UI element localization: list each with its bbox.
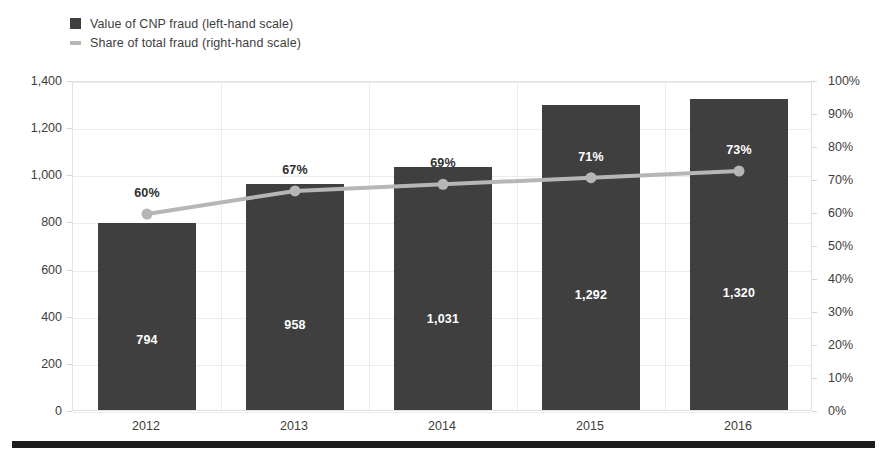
right-axis-tickmark [812,246,817,247]
right-axis-tickmark [812,180,817,181]
gridline-horizontal [73,82,811,83]
right-axis-tickmark [812,279,817,280]
percentage-label: 60% [134,186,160,200]
right-axis-tickmark [812,147,817,148]
legend-item-line: Share of total fraud (right-hand scale) [70,33,490,52]
right-axis-tickmark [812,213,817,214]
gridline-vertical [221,82,222,410]
left-axis-tick-label: 800 [41,215,62,229]
right-axis-tick-label: 80% [828,140,853,154]
left-axis-tick-label: 0 [55,404,62,418]
bar-2013[interactable] [246,184,344,410]
left-axis-tickmark [67,175,72,176]
line-marker-2012[interactable] [142,209,153,220]
right-axis-tick-label: 50% [828,239,853,253]
bar-value-label: 1,320 [723,286,755,300]
gridline-vertical [517,82,518,410]
percentage-label: 69% [430,156,456,170]
category-tick-label-2014: 2014 [428,419,456,433]
bar-value-label: 794 [136,333,157,347]
left-axis-tickmark [67,270,72,271]
filled-square-icon [70,18,81,29]
left-axis-tick-label: 600 [41,263,62,277]
category-tick-label-2012: 2012 [132,419,160,433]
gridline-vertical [665,82,666,410]
left-axis-tick-label: 1,400 [31,74,62,88]
right-axis-tickmark [812,312,817,313]
line-segment-icon [70,41,81,45]
right-axis-tickmark [812,345,817,346]
left-axis-tickmark [67,128,72,129]
category-tick-label-2016: 2016 [724,419,752,433]
right-axis-tick-label: 100% [828,74,860,88]
right-axis-tick-label: 90% [828,107,853,121]
left-axis-tick-label: 1,200 [31,121,62,135]
right-axis-tick-label: 30% [828,305,853,319]
category-tick-label-2015: 2015 [576,419,604,433]
right-axis-tickmark [812,378,817,379]
left-axis-tick-label: 200 [41,357,62,371]
percentage-label: 67% [282,163,308,177]
left-axis-tick-label: 400 [41,310,62,324]
legend-label-line: Share of total fraud (right-hand scale) [90,36,301,50]
chart-legend: Value of CNP fraud (left-hand scale) Sha… [70,14,490,52]
right-axis-tick-label: 60% [828,206,853,220]
left-axis-tickmark [67,81,72,82]
right-axis-tick-label: 10% [828,371,853,385]
bar-value-label: 1,292 [575,288,607,302]
right-axis-tick-label: 20% [828,338,853,352]
bar-2014[interactable] [394,167,492,410]
right-axis-tickmark [812,81,817,82]
bar-value-label: 1,031 [427,312,459,326]
bottom-divider-rule [12,441,875,448]
right-axis-tick-label: 0% [828,404,846,418]
gridline-vertical [369,82,370,410]
right-axis-tick-label: 40% [828,272,853,286]
percentage-label: 71% [578,150,604,164]
right-axis-tick-label: 70% [828,173,853,187]
gridline-horizontal [73,412,811,413]
left-axis-tickmark [67,411,72,412]
bar-value-label: 958 [284,318,305,332]
category-tick-label-2013: 2013 [280,419,308,433]
legend-label-bars: Value of CNP fraud (left-hand scale) [90,17,293,31]
bar-2012[interactable] [98,223,196,410]
legend-item-bars: Value of CNP fraud (left-hand scale) [70,14,490,33]
plot-area: 7949581,0311,2921,320 60%67%69%71%73% [72,81,812,411]
percentage-label: 73% [726,143,752,157]
left-axis-tickmark [67,222,72,223]
right-axis-tickmark [812,114,817,115]
left-axis-tick-label: 1,000 [31,168,62,182]
left-axis-tickmark [67,317,72,318]
left-axis-tickmark [67,364,72,365]
right-axis-tickmark [812,411,817,412]
